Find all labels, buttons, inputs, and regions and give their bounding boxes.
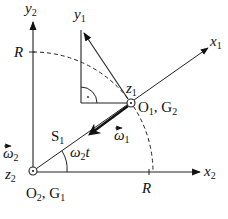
radius-label-y: R bbox=[13, 44, 23, 60]
y1-label: y1 bbox=[72, 6, 86, 24]
svg-text:ω2: ω2 bbox=[3, 145, 19, 163]
right-angle-mark bbox=[81, 87, 97, 103]
x1-label: x1 bbox=[209, 33, 222, 51]
angle-arc bbox=[62, 151, 67, 172]
kinematics-diagram: y2 y1 x1 x2 z1 z2 R R O1, G2 O2, G1 S1 ω… bbox=[0, 0, 228, 219]
s1-label: S1 bbox=[51, 128, 64, 146]
y2-label: y2 bbox=[23, 0, 37, 18]
radius-arc bbox=[33, 52, 153, 172]
o2-label: O2, G1 bbox=[26, 185, 65, 203]
svg-text:ω1: ω1 bbox=[114, 127, 130, 145]
z2-label: z2 bbox=[4, 166, 16, 184]
omega2-label: ω2 bbox=[3, 145, 19, 163]
z1-label: z1 bbox=[125, 80, 137, 98]
right-angle-dot bbox=[87, 96, 89, 98]
radius-label-x: R bbox=[141, 180, 151, 196]
y1-hypotenuse bbox=[84, 33, 128, 99]
x1-axis bbox=[33, 48, 208, 171]
o1-label: O1, G2 bbox=[138, 99, 177, 117]
x2-label: x2 bbox=[203, 163, 216, 181]
angle-label: ω2t bbox=[70, 144, 91, 162]
omega1-label: ω1 bbox=[114, 127, 130, 145]
